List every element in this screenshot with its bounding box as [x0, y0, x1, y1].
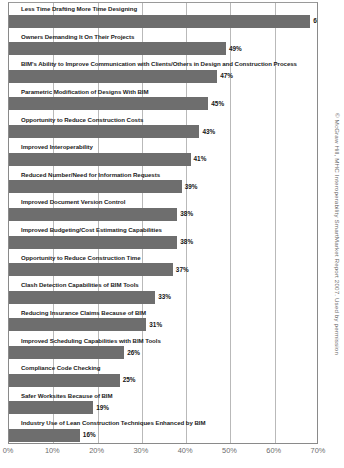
bar-category-label: Opportunity to Reduce Construction Time	[21, 252, 140, 263]
bar-container: 33%	[9, 291, 317, 304]
bar-row: Improved Scheduling Capabilities with BI…	[9, 335, 317, 363]
bar-value-label: 45%	[208, 99, 224, 109]
bar	[9, 429, 80, 442]
bar-value-label: 33%	[155, 292, 171, 302]
x-tick-label: 40%	[178, 446, 193, 455]
bar-value-label: 41%	[191, 154, 207, 164]
bar-container: 16%	[9, 429, 317, 442]
bar-category-label: Clash Detection Capabilities of BIM Tool…	[21, 279, 139, 290]
bar-category-label: Improved Interoperability	[21, 141, 93, 152]
bar-container: 41%	[9, 153, 317, 166]
bar	[9, 346, 124, 359]
bar	[9, 15, 310, 28]
bar-category-label: BIM's Ability to Improve Communication w…	[21, 58, 297, 69]
bar-row: Compliance Code Checking25%	[9, 362, 317, 390]
bar-container: 38%	[9, 208, 317, 221]
bar	[9, 125, 199, 138]
bar-value-label: 47%	[217, 71, 233, 81]
bar-chart: Less Time Drafting More Time Designing68…	[0, 0, 344, 468]
bar	[9, 180, 182, 193]
x-tick-label: 30%	[133, 446, 148, 455]
bar-row: Parametric Modification of Designs With …	[9, 86, 317, 114]
bar-value-label: 68%	[310, 16, 318, 26]
bar-container: 26%	[9, 346, 317, 359]
bar	[9, 401, 93, 414]
bar-row: Less Time Drafting More Time Designing68…	[9, 3, 317, 31]
bar	[9, 236, 177, 249]
bar-category-label: Owners Demanding It On Their Projects	[21, 31, 134, 42]
bar-rows: Less Time Drafting More Time Designing68…	[9, 3, 317, 443]
bar-value-label: 26%	[124, 348, 140, 358]
bar-category-label: Compliance Code Checking	[21, 362, 100, 373]
bar-row: Safer Worksites Because of BIM19%	[9, 390, 317, 418]
bar-category-label: Parametric Modification of Designs With …	[21, 86, 148, 97]
bar-category-label: Industry Use of Lean Construction Techni…	[21, 417, 205, 428]
bar-row: Reduced Number/Need for Information Requ…	[9, 169, 317, 197]
bar-row: BIM's Ability to Improve Communication w…	[9, 58, 317, 86]
bar-category-label: Opportunity to Reduce Construction Costs	[21, 114, 143, 125]
x-tick-label: 70%	[311, 446, 326, 455]
bar-value-label: 39%	[182, 182, 198, 192]
bar	[9, 42, 226, 55]
bar-value-label: 38%	[177, 237, 193, 247]
bar-row: Opportunity to Reduce Construction Time3…	[9, 252, 317, 280]
x-tick-label: 60%	[266, 446, 281, 455]
bar	[9, 153, 191, 166]
bar-value-label: 19%	[93, 403, 109, 413]
x-tick-label: 50%	[222, 446, 237, 455]
bar	[9, 318, 146, 331]
bar-row: Owners Demanding It On Their Projects49%	[9, 31, 317, 59]
bar	[9, 208, 177, 221]
x-tick-label: 0%	[3, 446, 14, 455]
bar-value-label: 25%	[120, 375, 136, 385]
bar-container: 19%	[9, 401, 317, 414]
bar-category-label: Reduced Number/Need for Information Requ…	[21, 169, 160, 180]
bar-row: Industry Use of Lean Construction Techni…	[9, 417, 317, 444]
bar-category-label: Safer Worksites Because of BIM	[21, 390, 113, 401]
bar-container: 45%	[9, 97, 317, 110]
bar-row: Reducing Insurance Claims Because of BIM…	[9, 307, 317, 335]
plot-area: Less Time Drafting More Time Designing68…	[8, 2, 318, 444]
bar-container: 39%	[9, 180, 317, 193]
bar-row: Clash Detection Capabilities of BIM Tool…	[9, 279, 317, 307]
bar-container: 49%	[9, 42, 317, 55]
bar-row: Improved Document Version Control38%	[9, 196, 317, 224]
x-tick-label: 20%	[89, 446, 104, 455]
bar	[9, 97, 208, 110]
bar-container: 68%	[9, 15, 317, 28]
bar-category-label: Improved Scheduling Capabilities with BI…	[21, 335, 161, 346]
bar-container: 25%	[9, 374, 317, 387]
bar-category-label: Improved Budgeting/Cost Estimating Capab…	[21, 224, 162, 235]
bar-container: 38%	[9, 236, 317, 249]
bar-container: 43%	[9, 125, 317, 138]
bar-value-label: 43%	[199, 127, 215, 137]
bar-row: Opportunity to Reduce Construction Costs…	[9, 114, 317, 142]
bar-category-label: Reducing Insurance Claims Because of BIM	[21, 307, 146, 318]
bar	[9, 263, 173, 276]
bar-container: 37%	[9, 263, 317, 276]
bar-value-label: 31%	[146, 320, 162, 330]
bar-category-label: Less Time Drafting More Time Designing	[21, 3, 137, 14]
bar-container: 31%	[9, 318, 317, 331]
bar-category-label: Improved Document Version Control	[21, 196, 125, 207]
bar-container: 47%	[9, 70, 317, 83]
bar	[9, 70, 217, 83]
bar-value-label: 16%	[80, 430, 96, 440]
copyright-credit-text: © McGraw Hill, MHC Interoperability Smar…	[334, 113, 341, 355]
x-axis: 0%10%20%30%40%50%60%70%	[8, 444, 318, 460]
bar	[9, 291, 155, 304]
bar	[9, 374, 120, 387]
x-tick-label: 10%	[45, 446, 60, 455]
bar-value-label: 37%	[173, 265, 189, 275]
copyright-credit: © McGraw Hill, MHC Interoperability Smar…	[330, 0, 344, 468]
bar-row: Improved Budgeting/Cost Estimating Capab…	[9, 224, 317, 252]
bar-value-label: 38%	[177, 209, 193, 219]
bar-value-label: 49%	[226, 44, 242, 54]
bar-row: Improved Interoperability41%	[9, 141, 317, 169]
